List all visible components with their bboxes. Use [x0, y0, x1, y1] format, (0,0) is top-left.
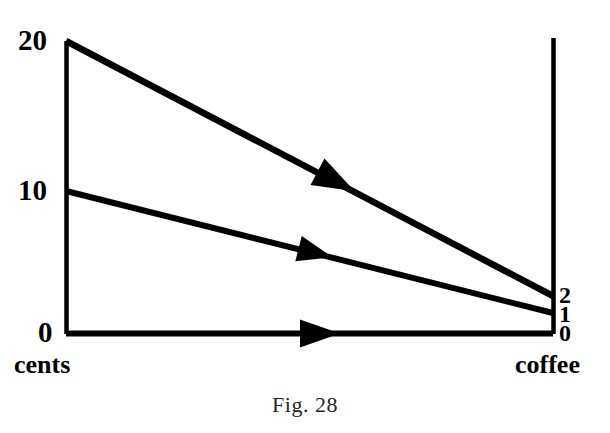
arrowhead-icon-middle-line [295, 236, 335, 270]
left-tick-label-0: 0 [38, 318, 53, 347]
right-tick-label-0: 0 [559, 321, 571, 345]
figure-container: 20 10 0 2 1 0 cents coffee Fig. 28 [0, 0, 610, 433]
arrowhead-icon-bottom-line [300, 320, 340, 348]
right-axis-name-coffee: coffee [515, 352, 580, 378]
left-axis-name-cents: cents [14, 352, 70, 378]
left-tick-label-10: 10 [18, 176, 47, 205]
arrowhead-icon-top-line [311, 159, 362, 205]
figure-caption: Fig. 28 [0, 392, 610, 418]
left-tick-label-20: 20 [18, 26, 47, 55]
